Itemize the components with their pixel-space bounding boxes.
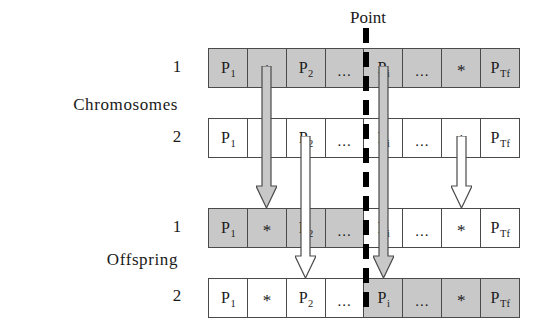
offspring-chromosome-1-cell-1: P1: [208, 208, 248, 248]
parent-chromosome-1-cell-4-label: ...: [337, 64, 351, 79]
offspring-chromosome-2-cell-7: *: [441, 278, 481, 318]
parent-chromosome-1-cell-3-label: P2: [299, 60, 313, 76]
arrow-parent2-p2-to-offspring2-p2: [295, 136, 316, 278]
parent-chromosome-1-cell-1-label: P1: [221, 60, 235, 76]
parent-chromosome-2-cell-8-label: PTf: [491, 130, 510, 146]
parent-chromosome-2-cell-8: PTf: [480, 118, 520, 158]
offspring-chromosome-1-cell-6-label: ...: [415, 224, 429, 239]
chromosomes-group-label: Chromosomes: [18, 95, 178, 115]
parent-chromosome-2-cell-6: ...: [402, 118, 442, 158]
arrow-parent1-pi-to-offspring2-pi: [373, 66, 394, 278]
row-index-parent-1: 1: [166, 57, 188, 77]
parent-chromosome-2-cell-4: ...: [325, 118, 365, 158]
crossover-point-dashed-line: [363, 28, 369, 316]
row-index-parent-2: 2: [166, 127, 188, 147]
offspring-chromosome-2-cell-5-label: Pi: [378, 290, 390, 306]
parent-chromosome-1-cell-6: ...: [402, 48, 442, 88]
parent-chromosome-2-cell-1-label: P1: [221, 130, 235, 146]
parent-chromosome-2-cell-6-label: ...: [415, 134, 429, 149]
offspring-group-label: Offspring: [18, 250, 178, 270]
parent-chromosome-1-cell-4: ...: [325, 48, 365, 88]
offspring-chromosome-1-cell-8: PTf: [480, 208, 520, 248]
crossover-diagram: Point Chromosomes Offspring 1 2 1 2 P1*P…: [0, 0, 546, 322]
row-index-offspring-2: 2: [166, 286, 188, 306]
offspring-chromosome-2-cell-5: Pi: [363, 278, 403, 318]
offspring-chromosome-2-cell-3: P2: [286, 278, 326, 318]
offspring-chromosome-2-cell-1: P1: [208, 278, 248, 318]
offspring-chromosome-1-cell-1-label: P1: [221, 220, 235, 236]
offspring-chromosome-1-cell-7: *: [441, 208, 481, 248]
parent-chromosome-1-cell-3: P2: [286, 48, 326, 88]
offspring-chromosome-2-cell-6: ...: [402, 278, 442, 318]
parent-chromosome-1-cell-1: P1: [208, 48, 248, 88]
offspring-chromosome-2-cell-8: PTf: [480, 278, 520, 318]
offspring-chromosome-2-cell-4-label: ...: [337, 294, 351, 309]
parent-chromosome-2-cell-1: P1: [208, 118, 248, 158]
offspring-chromosome-2-cell-1-label: P1: [221, 290, 235, 306]
offspring-chromosome-2-cell-3-label: P2: [299, 290, 313, 306]
arrow-parent2-star-to-offspring1-star: [451, 136, 472, 208]
parent-chromosome-2-cell-4-label: ...: [337, 134, 351, 149]
offspring-chromosome-1-cell-4-label: ...: [337, 224, 351, 239]
crossover-point-label: Point: [318, 8, 418, 28]
offspring-chromosome-1-cell-6: ...: [402, 208, 442, 248]
offspring-chromosome-1-cell-4: ...: [325, 208, 365, 248]
offspring-chromosome-2-cell-4: ...: [325, 278, 365, 318]
parent-chromosome-1-cell-6-label: ...: [415, 64, 429, 79]
offspring-chromosome-2-cell-2: *: [247, 278, 287, 318]
parent-chromosome-1-cell-8: PTf: [480, 48, 520, 88]
parent-chromosome-1-cell-8-label: PTf: [491, 60, 510, 76]
offspring-chromosome-1-cell-2: *: [247, 208, 287, 248]
offspring-chromosome-1-cell-8-label: PTf: [491, 220, 510, 236]
row-index-offspring-1: 1: [166, 217, 188, 237]
offspring-chromosome-2-cell-6-label: ...: [415, 294, 429, 309]
arrow-parent1-star-to-offspring1-star: [256, 66, 277, 208]
parent-chromosome-1-cell-7: *: [441, 48, 481, 88]
offspring-chromosome-2-cell-8-label: PTf: [491, 290, 510, 306]
